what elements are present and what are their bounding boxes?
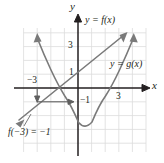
run-arrow-head bbox=[68, 99, 74, 104]
tick-label-x-3: 3 bbox=[116, 92, 121, 102]
y-axis-arrowhead bbox=[74, 14, 81, 22]
tick-label-y-3: 3 bbox=[68, 41, 73, 51]
graph-figure: y x y = f(x) y = g(x) 3 1 −1 3 −3 f(−3) … bbox=[0, 0, 164, 163]
tick-label-y-neg1: −1 bbox=[80, 96, 90, 106]
tick-label-y-1: 1 bbox=[69, 68, 74, 78]
annotation-f-of-neg3: f(−3) = −1 bbox=[8, 128, 50, 138]
x-axis-label: x bbox=[152, 80, 157, 91]
tick-label-x-neg3: −3 bbox=[27, 76, 37, 86]
curve-g-label: y = g(x) bbox=[110, 59, 142, 69]
construction-arrows bbox=[24, 88, 74, 126]
curve-f-arrow-left bbox=[34, 33, 42, 43]
graph-canvas bbox=[0, 0, 164, 163]
y-axis-label: y bbox=[70, 1, 75, 12]
curve-f-label: y = f(x) bbox=[85, 15, 115, 25]
curve-f-arrow-right bbox=[130, 33, 138, 43]
